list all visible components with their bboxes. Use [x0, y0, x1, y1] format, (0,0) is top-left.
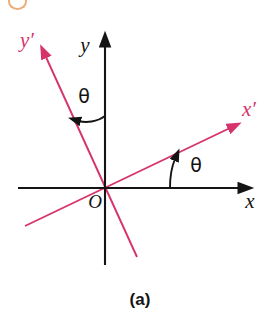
- upper-angle-arc: [79, 116, 105, 122]
- x-axis-label: x: [244, 189, 255, 213]
- figure-caption: (a): [130, 290, 151, 309]
- y-axis-label: y: [78, 33, 90, 57]
- x-prime-axis-label: x′: [241, 97, 256, 121]
- lower-theta-label: θ: [190, 154, 202, 176]
- origin-label: O: [88, 191, 102, 212]
- rotated-axes-diagram: y x y′ x′ O θ θ (a): [0, 0, 280, 314]
- y-prime-axis-label: y′: [18, 28, 34, 52]
- figure-container: y x y′ x′ O θ θ (a): [0, 0, 280, 314]
- y-prime-axis-line: [46, 56, 138, 257]
- upper-theta-label: θ: [78, 85, 90, 107]
- x-prime-axis-line: [25, 128, 230, 226]
- lower-angle-arc: [170, 159, 175, 188]
